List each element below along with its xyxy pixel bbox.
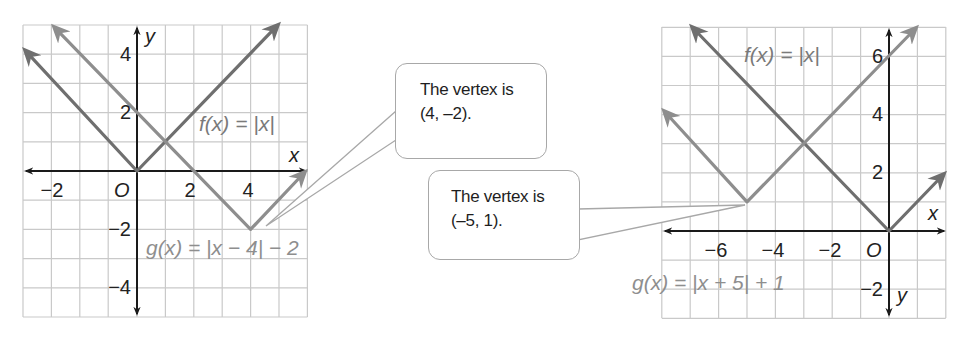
left-x-tick: 2 xyxy=(184,179,195,201)
left-x-tick: −2 xyxy=(41,179,64,201)
left-y-tick: 4 xyxy=(120,43,131,65)
right-y-tick: 4 xyxy=(872,103,883,125)
left-y-tick: 2 xyxy=(120,101,131,123)
right-y-axis-label: y xyxy=(895,284,908,306)
left-x-axis-label: x xyxy=(288,144,300,166)
right-x-tick: −2 xyxy=(819,239,842,261)
callout-text: (4, –2). xyxy=(420,102,530,126)
right-f-label: f(x) = |x| xyxy=(744,43,820,66)
callout-text: The vertex is xyxy=(420,78,530,102)
left-y-tick: −4 xyxy=(108,276,131,298)
callout-vertex-right: The vertex is (–5, 1). xyxy=(428,170,580,260)
right-g-label: g(x) = |x + 5| + 1 xyxy=(632,271,785,294)
left-x-tick: 4 xyxy=(242,179,253,201)
left-graph: −2 2 4 4 2 −2 −4 O x y f(x) = |x| g(x) =… xyxy=(23,25,307,317)
right-y-tick: −2 xyxy=(860,278,883,300)
left-f-graph xyxy=(26,26,277,171)
right-origin-label: O xyxy=(866,239,882,261)
right-x-tick: −6 xyxy=(705,239,728,261)
callout-vertex-left: The vertex is (4, –2). xyxy=(395,63,547,159)
right-y-tick: 6 xyxy=(872,45,883,67)
right-y-tick: 2 xyxy=(872,161,883,183)
callout-text: (–5, 1). xyxy=(451,209,563,233)
right-x-tick: −4 xyxy=(762,239,785,261)
figure-canvas: −2 2 4 4 2 −2 −4 O x y f(x) = |x| g(x) =… xyxy=(0,0,967,338)
left-f-label: f(x) = |x| xyxy=(199,112,275,135)
callout-text: The vertex is xyxy=(451,185,563,209)
left-origin-label: O xyxy=(114,179,130,201)
left-y-tick: −2 xyxy=(108,218,131,240)
callout-1-tail xyxy=(266,111,396,226)
left-y-axis-label: y xyxy=(143,25,156,47)
left-g-label: g(x) = |x − 4| − 2 xyxy=(146,236,299,259)
right-x-axis-label: x xyxy=(927,202,939,224)
right-graph: −6 −4 −2 6 4 2 −2 O x y f(x) = |x| g(x) … xyxy=(632,27,946,318)
